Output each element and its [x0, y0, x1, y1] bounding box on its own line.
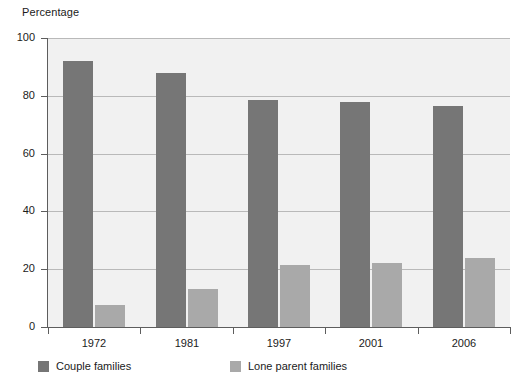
y-axis-tick — [41, 211, 48, 212]
x-axis-label-2001: 2001 — [336, 337, 406, 349]
y-axis-tick — [41, 38, 48, 39]
chart-legend: Couple familiesLone parent families — [0, 360, 527, 380]
x-axis-label-2006: 2006 — [429, 337, 499, 349]
legend-swatch-icon — [38, 361, 49, 372]
legend-swatch-icon — [230, 361, 241, 372]
x-axis-tick — [418, 328, 419, 334]
legend-label: Couple families — [56, 360, 131, 372]
y-axis-tick — [41, 96, 48, 97]
x-axis-line — [47, 327, 511, 328]
bar-chart: Percentage 020406080100 1972198119972001… — [0, 0, 527, 392]
x-axis-tick — [233, 328, 234, 334]
x-axis-label-1981: 1981 — [152, 337, 222, 349]
x-axis-tick — [510, 328, 511, 334]
y-axis-title: Percentage — [22, 6, 79, 18]
y-axis-label: 20 — [0, 263, 35, 274]
y-axis-label: 100 — [0, 32, 35, 43]
bar-2001-series-0 — [340, 102, 370, 327]
x-axis-label-1972: 1972 — [59, 337, 129, 349]
x-axis-label-1997: 1997 — [244, 337, 314, 349]
y-axis-label: 0 — [0, 321, 35, 332]
y-axis-tick — [41, 269, 48, 270]
y-axis-line — [47, 38, 48, 328]
bar-1981-series-1 — [188, 289, 218, 327]
bar-2006-series-1 — [465, 258, 495, 327]
plot-area — [48, 38, 510, 327]
x-axis-tick — [325, 328, 326, 334]
legend-item-1[interactable]: Lone parent families — [230, 360, 347, 372]
bars-layer — [48, 38, 510, 327]
legend-item-0[interactable]: Couple families — [38, 360, 131, 372]
bar-1981-series-0 — [156, 73, 186, 327]
x-axis-tick — [48, 328, 49, 334]
bar-2001-series-1 — [372, 263, 402, 327]
bar-1972-series-0 — [63, 61, 93, 327]
y-axis-tick — [41, 327, 48, 328]
y-axis-label: 60 — [0, 148, 35, 159]
y-axis-label: 40 — [0, 205, 35, 216]
legend-label: Lone parent families — [248, 360, 347, 372]
bar-2006-series-0 — [433, 106, 463, 327]
bar-1997-series-1 — [280, 265, 310, 327]
y-axis-tick — [41, 154, 48, 155]
bar-1972-series-1 — [95, 305, 125, 327]
bar-1997-series-0 — [248, 100, 278, 327]
x-axis-tick — [140, 328, 141, 334]
y-axis-label: 80 — [0, 90, 35, 101]
